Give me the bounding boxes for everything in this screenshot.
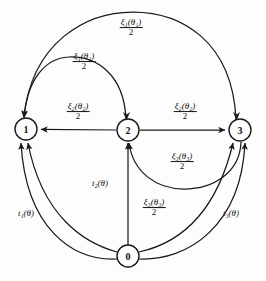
node-3-circle[interactable] [229,119,251,141]
edge-label-3-to-2-lower: ξ₃(θ₃) 2 [171,152,194,172]
edge-label-denominator: 2 [120,29,143,38]
diagram-svg [0,0,266,281]
node-2-circle[interactable] [117,119,139,141]
edge-label-denominator: 2 [73,63,96,72]
edge-label-denominator: 2 [171,163,194,172]
edge-0-to-1-inner-arc [28,143,117,252]
node-1-circle[interactable] [15,118,37,140]
edge-label-2-to-1-inner: ξ₁(θ₁) 2 [73,52,96,72]
edge-0-to-1-outer-arc [21,143,117,259]
edge-2-to-1-straight [41,129,116,130]
edge-label-0-to-3-inner: ξ₃(θ₃) 2 [143,198,166,218]
edge-label-denominator: 2 [143,209,166,218]
edge-label-0-to-1: t₁(θ) [18,209,34,218]
edge-label-0-to-2: t₂(θ) [92,179,108,188]
edge-label-denominator: 2 [67,113,90,122]
diagram-canvas: 1 2 3 0 ξ₁(θ₁) 2 ξ₁(θ₁) 2 ξ₂(θ₂) 2 ξ₂(θ₂… [0,0,266,281]
edge-label-denominator: 2 [174,113,197,122]
node-0-circle[interactable] [117,245,139,267]
edge-label-0-to-3-outer: t₃(θ) [223,209,239,218]
edge-label-2-to-1-straight: ξ₂(θ₂) 2 [67,102,90,122]
edge-label-3-to-1-outer: ξ₁(θ₁) 2 [120,18,143,38]
edge-label-2-to-3-straight: ξ₂(θ₂) 2 [174,102,197,122]
